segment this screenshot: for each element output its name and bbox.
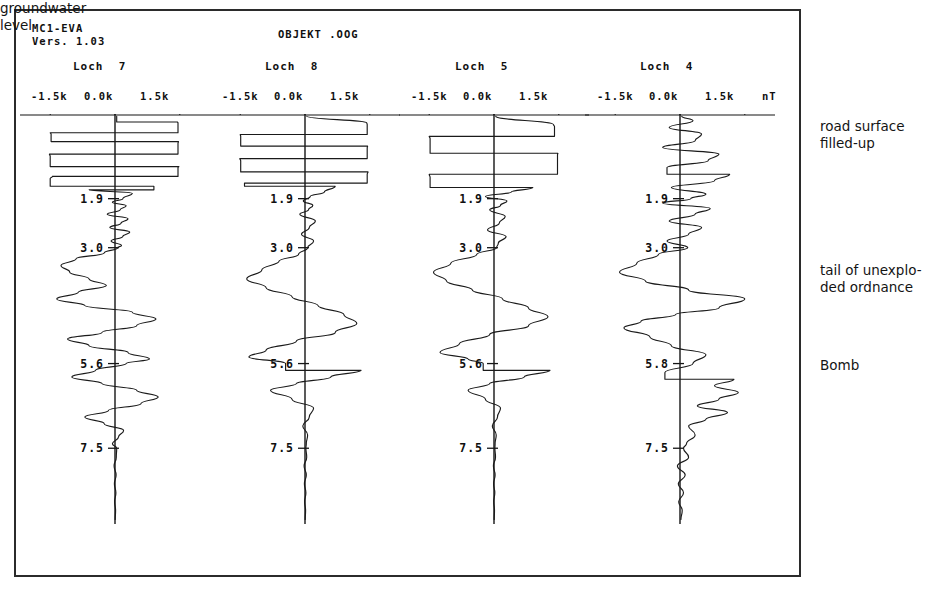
depth-label: 7.5 bbox=[645, 441, 669, 455]
log-track-loch-4: 1.93.05.87.5 bbox=[585, 114, 775, 524]
axis-tick-zero-track-1: 0.0k bbox=[84, 90, 113, 102]
screenshot-page: MC1-EVA Vers. 1.03 OBJEKT .OOG Loch 7 Lo… bbox=[0, 0, 938, 591]
axis-tick-max-track-3: 1.5k bbox=[519, 90, 548, 102]
depth-label: 5.6 bbox=[459, 357, 483, 371]
axis-tick-max-track-2: 1.5k bbox=[330, 90, 359, 102]
axis-tick-zero-track-4: 0.0k bbox=[649, 90, 678, 102]
track-title-loch-5: Loch 5 bbox=[455, 60, 508, 73]
axis-tick-min-track-1: -1.5k bbox=[31, 90, 68, 102]
axis-tick-min-track-2: -1.5k bbox=[222, 90, 259, 102]
device-version-label: Vers. 1.03 bbox=[32, 35, 105, 48]
depth-label: 7.5 bbox=[270, 441, 294, 455]
depth-label: 3.0 bbox=[645, 241, 669, 255]
track-title-loch-7: Loch 7 bbox=[73, 60, 126, 73]
depth-label: 5.8 bbox=[645, 357, 669, 371]
axis-tick-zero-track-3: 0.0k bbox=[463, 90, 492, 102]
log-plot-svg: 1.93.05.67.5 bbox=[210, 114, 400, 524]
annotation-bomb: Bomb bbox=[820, 357, 859, 374]
annotation-road-surface: road surface filled-up bbox=[820, 118, 905, 151]
axis-tick-max-track-4: 1.5k bbox=[705, 90, 734, 102]
depth-label: 1.9 bbox=[80, 192, 104, 206]
annotation-groundwater-level: groundwater level bbox=[0, 0, 86, 33]
axis-tick-min-track-3: -1.5k bbox=[411, 90, 448, 102]
log-plot-svg: 1.93.05.87.5 bbox=[585, 114, 775, 524]
axis-tick-min-track-4: -1.5k bbox=[597, 90, 634, 102]
axis-tick-zero-track-2: 0.0k bbox=[274, 90, 303, 102]
log-plot-svg: 1.93.05.67.5 bbox=[399, 114, 589, 524]
depth-label: 1.9 bbox=[270, 192, 294, 206]
depth-label: 5.6 bbox=[270, 357, 294, 371]
depth-label: 7.5 bbox=[459, 441, 483, 455]
track-title-loch-8: Loch 8 bbox=[265, 60, 318, 73]
log-track-loch-7: 1.93.05.67.5 bbox=[20, 114, 210, 524]
axis-tick-max-track-1: 1.5k bbox=[140, 90, 169, 102]
depth-label: 3.0 bbox=[80, 241, 104, 255]
track-title-loch-4: Loch 4 bbox=[640, 60, 693, 73]
depth-label: 1.9 bbox=[645, 192, 669, 206]
depth-label: 3.0 bbox=[270, 241, 294, 255]
log-curve bbox=[49, 116, 179, 519]
axis-unit-label: nT bbox=[762, 90, 777, 102]
log-curve bbox=[240, 116, 368, 519]
log-track-loch-5: 1.93.05.67.5 bbox=[399, 114, 589, 524]
depth-label: 1.9 bbox=[459, 192, 483, 206]
log-track-loch-8: 1.93.05.67.5 bbox=[210, 114, 400, 524]
annotation-tail-ordnance: tail of unexplo- ded ordnance bbox=[820, 262, 922, 295]
object-name-label: OBJEKT .OOG bbox=[278, 28, 359, 40]
log-plot-svg: 1.93.05.67.5 bbox=[20, 114, 210, 524]
depth-label: 7.5 bbox=[80, 441, 104, 455]
log-curve bbox=[620, 116, 745, 519]
